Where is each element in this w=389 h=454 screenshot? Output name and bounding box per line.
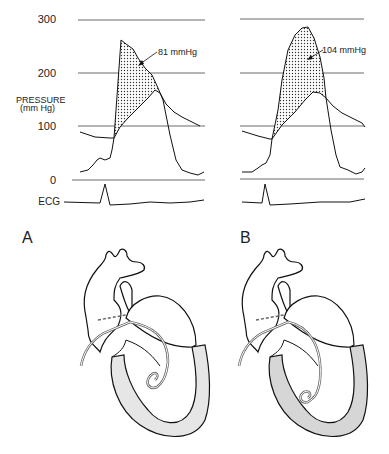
y-axis-unit: (mm Hg) [20, 103, 55, 113]
ecg-label: ECG [38, 196, 60, 207]
tick-200: 200 [38, 67, 56, 79]
panel-label-a: A [22, 229, 33, 246]
tick-300: 300 [38, 13, 56, 25]
gradient-area-b [272, 27, 326, 139]
panel-label-b: B [240, 229, 251, 246]
heart-diagram-a [81, 249, 210, 436]
heart-diagram-b [239, 249, 368, 436]
figure: 300 200 100 0 PRESSURE (mm Hg) ECG 81 mm… [0, 0, 389, 454]
gradient-label-b: 104 mmHg [322, 45, 366, 55]
tick-0: 0 [50, 174, 56, 186]
tick-100: 100 [38, 120, 56, 132]
gradient-label-a: 81 mmHg [158, 47, 197, 57]
ecg-trace-b [242, 184, 365, 205]
ecg-trace-a [64, 184, 204, 205]
